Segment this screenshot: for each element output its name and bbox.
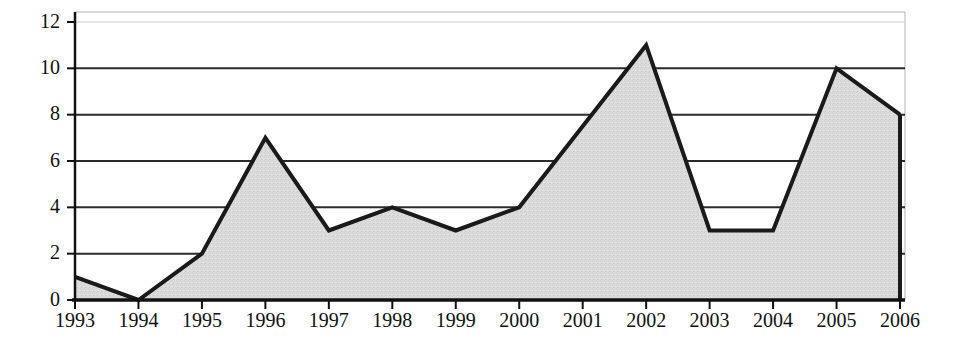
x-tick-label: 2006	[880, 309, 920, 331]
y-tick-label: 10	[40, 56, 60, 78]
y-tick-label: 8	[50, 102, 60, 124]
x-tick-label: 1999	[436, 309, 476, 331]
y-tick-label: 0	[50, 288, 60, 310]
x-tick-label: 2004	[753, 309, 793, 331]
x-tick-label: 1997	[309, 309, 349, 331]
y-tick-label: 6	[50, 149, 60, 171]
x-tick-label: 1996	[245, 309, 285, 331]
y-tick-label: 2	[50, 241, 60, 263]
y-tick-label: 12	[40, 10, 60, 32]
chart-canvas: 024681012 199319941995199619971998199920…	[0, 0, 960, 344]
x-tick-label: 2005	[817, 309, 857, 331]
x-tick-label: 1994	[118, 309, 158, 331]
x-tick-label: 2000	[499, 309, 539, 331]
x-tick-label: 1993	[55, 309, 95, 331]
x-tick-label: 2003	[690, 309, 730, 331]
x-tick-label: 2001	[563, 309, 603, 331]
x-tick-label: 2002	[626, 309, 666, 331]
area-chart: 024681012 199319941995199619971998199920…	[0, 0, 960, 344]
x-tick-label: 1995	[182, 309, 222, 331]
y-tick-label: 4	[50, 195, 60, 217]
x-tick-label: 1998	[372, 309, 412, 331]
